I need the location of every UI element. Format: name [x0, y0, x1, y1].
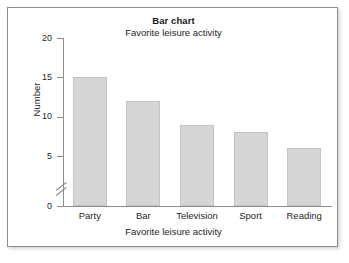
- y-axis-tick-label: 15: [26, 73, 52, 82]
- bar: [287, 148, 321, 206]
- y-axis-tick-label: 10: [26, 112, 52, 121]
- bar: [73, 77, 107, 206]
- bar: [126, 101, 160, 206]
- chart-title: Bar chart: [8, 15, 339, 26]
- bar: [180, 125, 214, 206]
- plot-area: [63, 38, 331, 206]
- y-axis-tick: [57, 206, 63, 207]
- x-axis-title: Favorite leisure activity: [8, 226, 339, 237]
- x-axis-line: [63, 206, 332, 207]
- bar: [234, 132, 268, 206]
- x-axis-tick-label: Reading: [259, 210, 349, 221]
- chart-subtitle: Favorite leisure activity: [8, 27, 339, 38]
- y-axis-tick-label: 20: [26, 34, 52, 43]
- chart-frame: Bar chart Favorite leisure activity Numb…: [7, 7, 338, 247]
- y-axis-tick-label: 5: [26, 152, 52, 161]
